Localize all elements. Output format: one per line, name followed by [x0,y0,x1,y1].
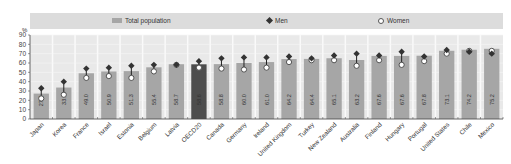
x-category-label: France [71,120,90,139]
bar-value-label: 50.9 [106,94,112,105]
bar [146,67,161,119]
women-marker [264,65,269,70]
women-marker [286,59,291,64]
bar-value-label: 60.0 [241,94,247,105]
bar-value-label: 67.8 [421,94,427,105]
x-category-label: Turkey [297,120,317,140]
y-tick-label: 50 [19,69,27,76]
bar [304,59,319,119]
bar-value-label: 75.2 [489,94,495,105]
y-tick-label: 20 [19,97,27,104]
bar-value-label: 74.2 [466,94,472,105]
bar-value-label: 65.1 [331,94,337,105]
bar-value-label: 58.7 [173,94,179,105]
women-marker [106,73,111,78]
women-marker [129,75,134,80]
y-tick-label: 0 [22,115,26,122]
bar-value-label: 58.8 [218,94,224,105]
y-tick-label: 30 [19,87,27,94]
bar-value-label: 64.4 [309,94,315,105]
bar-value-label: 51.3 [128,94,134,105]
women-marker [151,69,156,74]
women-marker [61,92,66,97]
y-tick-label: 10 [19,106,27,113]
bar [439,51,454,119]
women-marker [84,75,89,80]
women-marker [39,96,44,101]
x-category-label: Estonia [115,120,135,140]
x-category-label: Ireland [252,120,271,139]
x-category-label: Mexico [476,120,495,139]
bar-value-label: 63.2 [354,94,360,105]
x-category-label: Korea [51,120,68,137]
bar-value-label: 49.0 [83,94,89,105]
x-category-label: Japan [28,120,46,138]
bar-value-label: 55.4 [151,94,157,105]
bar-value-label: 67.6 [376,94,382,105]
y-tick-label: 90 [19,31,27,38]
x-category-label: Belgium [137,121,159,143]
x-category-label: Chile [458,120,473,135]
x-category-label: Australia [338,120,361,143]
bar-chart: 010203040506070809027.2Japan33.7Korea49.… [0,0,511,164]
bar [214,64,229,119]
x-category-label: Hungary [384,120,407,143]
x-category-label: Latvia [163,120,180,137]
x-category-label: Israel [97,121,113,137]
y-tick-label: 60 [19,59,27,66]
bar [169,64,184,119]
women-marker [219,66,224,71]
bar-value-label: 67.6 [399,94,405,105]
y-tick-label: 40 [19,78,27,85]
x-category-label: Finland [363,120,383,140]
x-category-label: OECD20 [180,120,203,143]
bar [371,56,386,119]
bar [462,50,477,119]
bar-value-label: 64.2 [286,94,292,105]
bar [281,59,296,119]
x-category-label: Germany [224,120,249,145]
women-marker [354,63,359,68]
bar [326,58,341,119]
bar-value-label: 61.0 [264,94,270,105]
y-tick-label: 80 [19,41,27,48]
bar [349,60,364,119]
bar-value-label: 73.1 [444,94,450,105]
bar [417,56,432,119]
women-marker [196,65,201,70]
y-tick-label: 70 [19,50,27,57]
bar [191,64,206,119]
women-marker [241,67,246,72]
women-marker [399,62,404,67]
bar [484,49,499,119]
x-category-label: Canada [205,120,226,141]
bar-value-label: 58.6 [196,94,202,105]
